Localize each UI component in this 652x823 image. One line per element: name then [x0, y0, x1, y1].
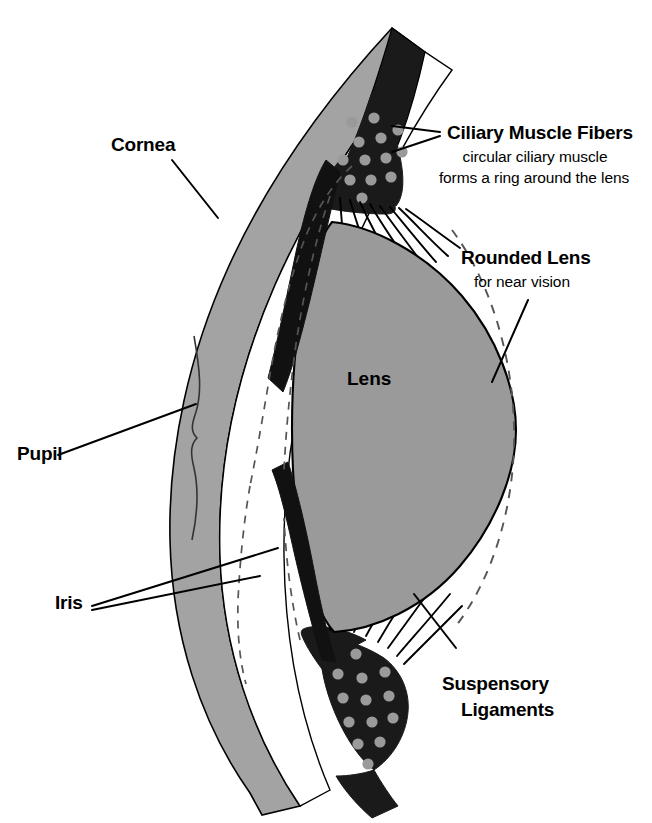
label-ciliary-muscle-fibers-subtitle-line2: forms a ring around the lens [416, 169, 652, 187]
label-suspensory-ligaments-line1: Suspensory [442, 673, 549, 695]
leader-line-rounded-lens [492, 300, 528, 382]
ciliary-body-lower [301, 627, 408, 771]
label-lens: Lens [347, 368, 391, 390]
label-iris: Iris [55, 592, 83, 614]
label-rounded-lens: Rounded Lens [461, 247, 591, 269]
lower-limbus-shape [336, 770, 398, 818]
label-ciliary-muscle-fibers-subtitle-line1: circular ciliary muscle [424, 148, 646, 166]
label-cornea: Cornea [111, 134, 175, 156]
label-pupil: Pupil [17, 443, 62, 465]
eye-accommodation-diagram: for viewing a distant object [0, 0, 652, 823]
label-ciliary-muscle-fibers: Ciliary Muscle Fibers [447, 122, 633, 144]
leader-line-suspensory [414, 594, 456, 648]
leader-line-cornea [172, 160, 218, 218]
label-suspensory-ligaments-line2: Ligaments [461, 699, 554, 721]
lower-limbus-wedge [336, 770, 398, 818]
label-rounded-lens-subtitle: for near vision [452, 273, 592, 291]
